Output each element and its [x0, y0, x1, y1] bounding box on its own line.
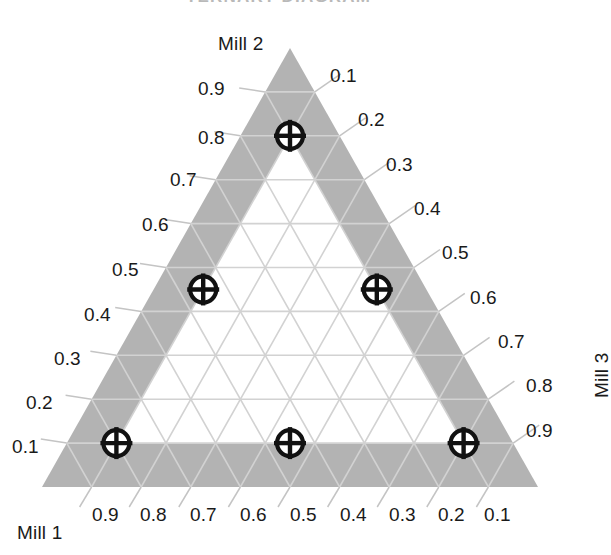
right-axis-tick-label-1: 0.2: [358, 110, 385, 129]
bottom-axis-tick-label-7: 0.2: [438, 505, 465, 524]
bottom-axis-tick-label-8: 0.1: [484, 505, 511, 524]
left-axis-tick-label-3: 0.6: [142, 215, 169, 234]
axis-title-mill-3: Mill 3: [592, 352, 611, 398]
right-axis-tick-label-6: 0.7: [498, 332, 525, 351]
left-axis-tick-label-1: 0.8: [198, 128, 225, 147]
bottom-axis-tick-label-1: 0.8: [140, 505, 167, 524]
bottom-axis-tick-label-3: 0.6: [240, 505, 267, 524]
ternary-diagram-figure: TERNARY DIAGRAM 0.90.80.70.60.50.40.30.2…: [0, 0, 611, 555]
right-axis-tick-label-7: 0.8: [526, 376, 553, 395]
bottom-axis-tick-label-0: 0.9: [92, 505, 119, 524]
right-axis-tick-label-8: 0.9: [526, 421, 553, 440]
right-axis-tick-label-5: 0.6: [470, 288, 497, 307]
ternary-plot-canvas: [0, 0, 611, 555]
left-axis-tick-label-7: 0.2: [26, 393, 53, 412]
bottom-axis-tick-label-4: 0.5: [290, 505, 317, 524]
left-axis-tick-label-4: 0.5: [112, 260, 139, 279]
right-axis-tick-label-4: 0.5: [442, 243, 469, 262]
left-axis-tick-label-5: 0.4: [84, 305, 111, 324]
right-axis-tick-label-2: 0.3: [386, 155, 413, 174]
axis-title-mill-2: Mill 2: [218, 34, 264, 53]
left-axis-tick-label-6: 0.3: [54, 349, 81, 368]
bottom-axis-tick-label-6: 0.3: [389, 505, 416, 524]
bottom-axis-tick-label-5: 0.4: [340, 505, 367, 524]
left-axis-tick-label-0: 0.9: [198, 79, 225, 98]
left-axis-tick-label-8: 0.1: [12, 437, 39, 456]
axis-title-mill-1: Mill 1: [17, 523, 63, 542]
left-axis-tick-label-2: 0.7: [170, 170, 197, 189]
right-axis-tick-label-3: 0.4: [414, 199, 441, 218]
right-axis-tick-label-0: 0.1: [330, 66, 357, 85]
bottom-axis-tick-label-2: 0.7: [190, 505, 217, 524]
